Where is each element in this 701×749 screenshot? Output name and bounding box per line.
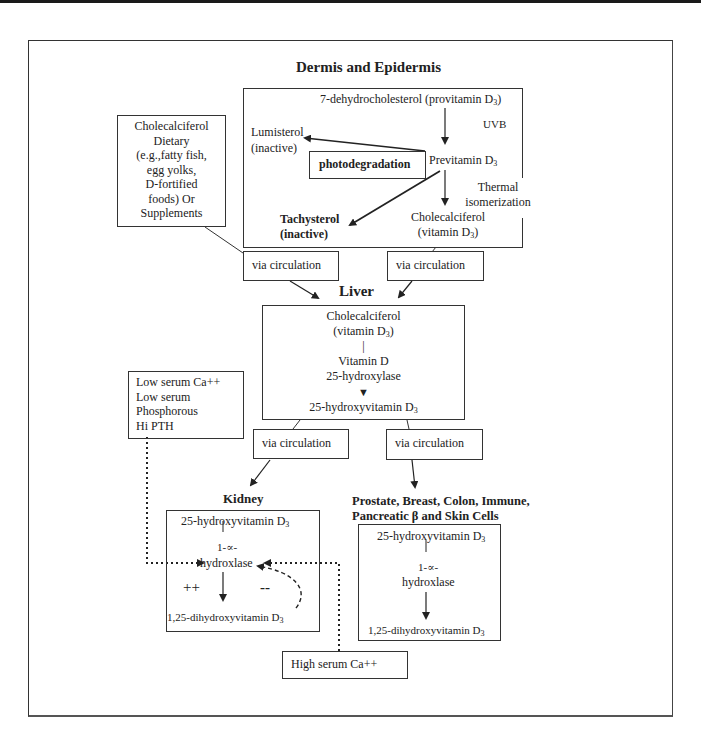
kidney-substrate: 25-hydroxyvitamin D3 xyxy=(181,514,289,529)
liver-content: Cholecalciferol (vitamin D3) | Vitamin D… xyxy=(262,309,465,415)
circulation-label-upper-right: via circulation xyxy=(396,258,465,273)
arrow-circulation-right-to-liver xyxy=(399,281,412,297)
circulation-label-upper-left: via circulation xyxy=(252,258,321,273)
high-serum-label: High serum Ca++ xyxy=(291,657,377,672)
arrow-circulation-to-tissues xyxy=(412,460,415,487)
thermal-isomerization-label: Thermalisomerization xyxy=(462,180,534,210)
provitamin-label: 7-dehydrocholesterol (provitamin D3) xyxy=(320,92,501,107)
photodegradation-label: photodegradation xyxy=(319,157,410,172)
tissues-title: Prostate, Breast, Colon, Immune, Pancrea… xyxy=(352,494,530,524)
lumisterol-label: Lumisterol(inactive) xyxy=(251,124,304,156)
tissues-enzyme-prefix: 1-∝- xyxy=(418,560,438,575)
kidney-minus-sign: -- xyxy=(260,580,270,595)
uvb-label: UVB xyxy=(483,117,506,132)
arrow-circulation-to-kidney xyxy=(251,460,270,485)
dietary-label: Cholecalciferol Dietary (e.g.,fatty fish… xyxy=(117,119,226,221)
kidney-product: 1,25-dihydroxyvitamin D3 xyxy=(167,610,283,625)
dermis-title: Dermis and Epidermis xyxy=(296,60,441,75)
line-dietary-to-circulation xyxy=(205,227,243,253)
line-liver-to-circulation-right xyxy=(407,420,409,429)
tissues-product: 1,25-dihydroxyvitamin D3 xyxy=(368,623,484,638)
tissues-substrate: 25-hydroxyvitamin D3 xyxy=(377,529,485,544)
line-liver-to-circulation-left xyxy=(293,420,300,429)
liver-title: Liver xyxy=(339,284,374,299)
circulation-label-lower-right: via circulation xyxy=(395,436,464,451)
tachysterol-label: Tachysterol(inactive) xyxy=(280,212,339,242)
kidney-enzyme: hydroxlase xyxy=(200,556,253,571)
kidney-title: Kidney xyxy=(223,491,263,506)
kidney-enzyme-prefix: 1-∝- xyxy=(217,540,237,555)
kidney-plus-sign: ++ xyxy=(183,580,200,595)
low-serum-label: Low serum Ca++ Low serum Phosphorous Hi … xyxy=(136,375,220,433)
previtamin-label: Previtamin D3 xyxy=(429,153,497,168)
circulation-label-lower-left: via circulation xyxy=(262,436,331,451)
cholecalciferol-skin-label: Cholecalciferol(vitamin D3) xyxy=(408,210,488,240)
tissues-enzyme: hydroxlase xyxy=(402,575,455,590)
arrow-circulation-left-to-liver xyxy=(290,281,318,298)
